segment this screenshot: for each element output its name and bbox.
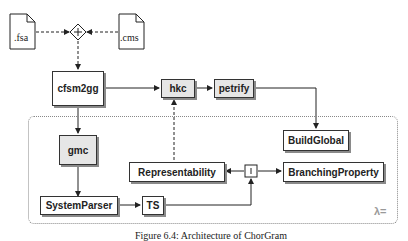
node-buildglobal: BuildGlobal bbox=[283, 130, 349, 151]
node-ts: TS bbox=[142, 196, 164, 215]
node-petrify: petrify bbox=[214, 79, 254, 98]
fsa-input-label: .fsa bbox=[14, 32, 28, 43]
node-branchingproperty: BranchingProperty bbox=[283, 162, 384, 182]
node-cfsm2gg: cfsm2gg bbox=[52, 71, 104, 106]
node-hkc: hkc bbox=[161, 79, 195, 98]
node-representability: Representability bbox=[129, 162, 225, 182]
cms-input-label: .cms bbox=[120, 32, 139, 43]
figure-caption: Figure 6.4: Architecture of ChorGram bbox=[135, 230, 287, 241]
node-systemparser: SystemParser bbox=[40, 196, 118, 215]
merge-node bbox=[70, 24, 86, 40]
node-gmc: gmc bbox=[59, 135, 97, 165]
haskell-logo-icon: λ= bbox=[374, 205, 387, 217]
